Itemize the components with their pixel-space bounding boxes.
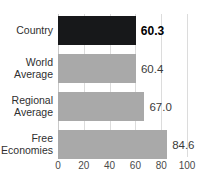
- category-label: Country: [0, 25, 56, 37]
- bar-regional-average[interactable]: [58, 92, 144, 121]
- bar-free-economies[interactable]: [58, 130, 167, 159]
- bar-country[interactable]: [58, 16, 136, 45]
- plot-area: 60.3Country60.4WorldAverage67.0RegionalA…: [58, 14, 187, 157]
- bar-row: 67.0RegionalAverage: [58, 92, 187, 121]
- gridline-100: [187, 14, 188, 157]
- x-tick-label-20: 20: [78, 160, 89, 171]
- bar-row: 84.6FreeEconomies: [58, 130, 187, 159]
- category-label-line2: Average: [0, 69, 53, 81]
- bar-row: 60.4WorldAverage: [58, 54, 187, 83]
- x-tick-label-40: 40: [104, 160, 115, 171]
- bar-world-average[interactable]: [58, 54, 136, 83]
- category-label-line2: Average: [0, 107, 53, 119]
- bar-chart: 60.3Country60.4WorldAverage67.0RegionalA…: [0, 0, 202, 182]
- bar-value-label: 67.0: [144, 101, 171, 113]
- x-tick-label-0: 0: [55, 160, 61, 171]
- category-label: RegionalAverage: [0, 95, 56, 118]
- x-axis: 020406080100: [58, 158, 187, 176]
- bar-value-label: 84.6: [167, 139, 194, 151]
- category-label: FreeEconomies: [0, 133, 56, 156]
- x-tick-label-80: 80: [156, 160, 167, 171]
- category-label-line1: Regional: [12, 94, 53, 106]
- x-tick-label-60: 60: [130, 160, 141, 171]
- category-label: WorldAverage: [0, 57, 56, 80]
- bar-value-label: 60.4: [136, 63, 163, 75]
- category-label-line1: Free: [31, 132, 53, 144]
- x-tick-label-100: 100: [179, 160, 196, 171]
- category-label-line2: Economies: [0, 145, 53, 157]
- bar-row: 60.3Country: [58, 16, 187, 45]
- bar-value-label: 60.3: [136, 24, 164, 38]
- category-label-line1: World: [26, 56, 53, 68]
- category-label-line1: Country: [16, 24, 53, 36]
